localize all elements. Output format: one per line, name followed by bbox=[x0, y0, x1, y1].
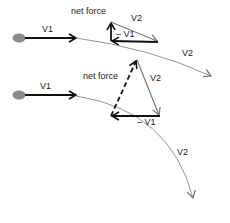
minus-v1-label: – V1 bbox=[116, 29, 135, 39]
ball-icon bbox=[13, 91, 26, 100]
net-force-label: net force bbox=[71, 6, 106, 16]
path-v2-label: V2 bbox=[177, 147, 188, 157]
triangle-v2-arrow bbox=[137, 60, 159, 115]
minus-v1-arrow bbox=[112, 41, 158, 42]
net-force-label: net force bbox=[83, 71, 118, 81]
v1-label: V1 bbox=[40, 81, 51, 91]
triangle-v2-label: V2 bbox=[131, 13, 142, 23]
minus-v1-label: – V1 bbox=[137, 117, 156, 127]
v1-label: V1 bbox=[42, 24, 53, 34]
net-force-arrow bbox=[111, 61, 136, 116]
triangle-v2-label: V2 bbox=[150, 73, 161, 83]
velocity-diagram: V1 V2 net force V2 – V1 V1 V2 net force … bbox=[0, 0, 230, 223]
top-diagram: V1 V2 net force V2 – V1 bbox=[13, 6, 212, 76]
curved-path-v2 bbox=[76, 96, 193, 198]
path-v2-label: V2 bbox=[182, 48, 193, 58]
bottom-diagram: V1 V2 net force V2 – V1 bbox=[13, 60, 194, 198]
ball-icon bbox=[13, 34, 26, 43]
